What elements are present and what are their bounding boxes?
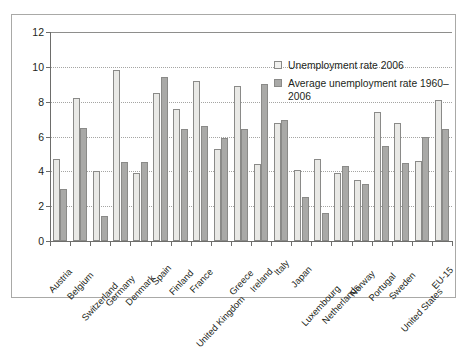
bar bbox=[60, 189, 67, 241]
bar bbox=[354, 180, 361, 241]
legend-entry: Unemployment rate 2006 bbox=[274, 59, 469, 72]
bar bbox=[442, 129, 449, 241]
bar bbox=[121, 162, 128, 241]
grid-line bbox=[50, 137, 452, 138]
bar bbox=[402, 163, 409, 241]
y-tick-label: 2 bbox=[38, 201, 44, 212]
figure-frame: 024681012 AustriaBelgiumSwitzerlandGerma… bbox=[11, 14, 456, 298]
bar bbox=[254, 164, 261, 241]
x-tick-mark bbox=[452, 241, 453, 246]
bar bbox=[362, 184, 369, 241]
chart-legend: Unemployment rate 2006 Average unemploym… bbox=[274, 59, 469, 109]
bar bbox=[415, 161, 422, 241]
bar bbox=[274, 123, 281, 241]
bar bbox=[322, 213, 329, 241]
x-category-label: Ireland bbox=[249, 267, 275, 294]
bar bbox=[261, 84, 268, 241]
dark-gray-square-icon bbox=[274, 79, 282, 87]
bar bbox=[161, 77, 168, 241]
bar bbox=[422, 137, 429, 241]
legend-entry: Average unemployment rate 1960–2006 bbox=[274, 77, 469, 103]
x-category-label: United States bbox=[400, 287, 445, 334]
bar bbox=[53, 159, 60, 241]
bar bbox=[374, 112, 381, 241]
y-tick-label: 0 bbox=[38, 236, 44, 247]
y-tick-label: 4 bbox=[38, 166, 44, 177]
light-gray-square-icon bbox=[274, 61, 282, 69]
plot-area: 024681012 AustriaBelgiumSwitzerlandGerma… bbox=[50, 32, 452, 242]
bar bbox=[334, 173, 341, 241]
bar bbox=[342, 166, 349, 241]
legend-label: Average unemployment rate 1960–2006 bbox=[288, 77, 458, 103]
bar bbox=[153, 93, 160, 241]
bar bbox=[314, 159, 321, 241]
y-axis-line bbox=[50, 32, 51, 242]
bar bbox=[382, 146, 389, 241]
x-category-label: Italy bbox=[273, 259, 291, 278]
bar bbox=[113, 70, 120, 241]
bar bbox=[101, 216, 108, 241]
bar bbox=[435, 100, 442, 241]
bar bbox=[201, 126, 208, 241]
bar bbox=[302, 197, 309, 241]
y-tick-label: 12 bbox=[32, 27, 44, 38]
bar bbox=[193, 81, 200, 241]
bar bbox=[141, 162, 148, 241]
bar bbox=[93, 171, 100, 241]
bar bbox=[221, 138, 228, 241]
bar bbox=[80, 128, 87, 241]
bar bbox=[173, 109, 180, 241]
bar bbox=[234, 86, 241, 241]
bar bbox=[133, 173, 140, 241]
bar bbox=[394, 123, 401, 241]
bar bbox=[181, 129, 188, 241]
x-category-label: Japan bbox=[290, 265, 314, 290]
x-category-label: United Kingdom bbox=[195, 295, 247, 349]
grid-line bbox=[50, 206, 452, 207]
legend-label: Unemployment rate 2006 bbox=[288, 59, 404, 72]
bar bbox=[241, 129, 248, 241]
x-category-label: EU-15 bbox=[431, 266, 456, 292]
bar bbox=[214, 149, 221, 241]
y-tick-label: 8 bbox=[38, 96, 44, 107]
x-category-label: Spain bbox=[150, 264, 173, 288]
x-axis-line bbox=[50, 241, 452, 242]
grid-line bbox=[50, 32, 452, 33]
grid-line bbox=[50, 171, 452, 172]
y-tick-label: 10 bbox=[32, 62, 44, 73]
bar bbox=[73, 98, 80, 241]
bar bbox=[294, 170, 301, 241]
y-tick-label: 6 bbox=[38, 131, 44, 142]
bar bbox=[281, 120, 288, 241]
